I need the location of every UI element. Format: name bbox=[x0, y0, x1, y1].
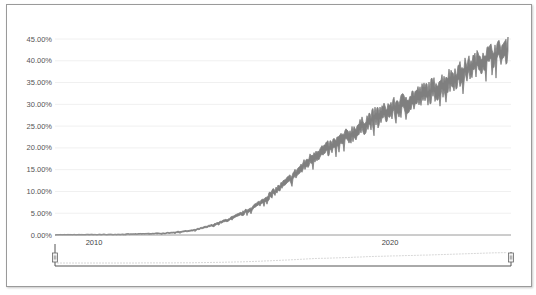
y-tick-label: 35.00% bbox=[27, 78, 53, 87]
grid bbox=[55, 39, 511, 213]
navigator[interactable] bbox=[53, 244, 514, 266]
plot-series bbox=[55, 37, 508, 235]
x-axis-labels: 20102020 bbox=[86, 238, 399, 247]
y-tick-label: 5.00% bbox=[31, 209, 53, 218]
x-tick-label: 2020 bbox=[382, 238, 399, 247]
y-tick-label: 0.00% bbox=[31, 231, 53, 240]
navigator-series bbox=[57, 253, 507, 263]
y-tick-label: 15.00% bbox=[27, 165, 53, 174]
y-axis-labels: 0.00%5.00%10.00%15.00%20.00%25.00%30.00%… bbox=[27, 35, 53, 240]
y-tick-label: 25.00% bbox=[27, 122, 53, 131]
y-tick-label: 45.00% bbox=[27, 35, 53, 44]
series-band bbox=[55, 37, 508, 235]
chart: 0.00%5.00%10.00%15.00%20.00%25.00%30.00%… bbox=[0, 0, 536, 295]
y-tick-label: 10.00% bbox=[27, 187, 53, 196]
navigator-handle-left[interactable] bbox=[53, 253, 58, 262]
x-tick-label: 2010 bbox=[86, 238, 103, 247]
y-tick-label: 40.00% bbox=[27, 56, 53, 65]
y-tick-label: 30.00% bbox=[27, 100, 53, 109]
navigator-handle-right[interactable] bbox=[509, 253, 514, 262]
y-tick-label: 20.00% bbox=[27, 143, 53, 152]
